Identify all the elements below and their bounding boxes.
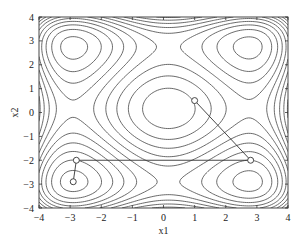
y-tick-label: 1 bbox=[29, 83, 34, 94]
contour-level bbox=[39, 17, 288, 208]
y-axis-label: x2 bbox=[9, 108, 20, 118]
axis-ticks bbox=[39, 17, 288, 208]
y-tick-label: −4 bbox=[23, 203, 34, 214]
path-point-marker bbox=[248, 157, 254, 163]
y-tick-labels: −4−3−2−101234 bbox=[23, 12, 34, 214]
contour-level bbox=[39, 17, 288, 208]
y-tick-label: 4 bbox=[29, 12, 34, 23]
path-point-marker bbox=[70, 179, 76, 185]
x-axis-label: x1 bbox=[159, 225, 169, 236]
path-point-marker bbox=[73, 157, 79, 163]
contour-level bbox=[39, 18, 286, 208]
x-tick-label: −4 bbox=[34, 212, 45, 223]
plot-frame bbox=[39, 17, 288, 208]
y-tick-label: −1 bbox=[23, 131, 34, 142]
contour-level bbox=[39, 17, 288, 208]
path-point-marker bbox=[192, 98, 198, 104]
x-tick-label: 2 bbox=[223, 212, 228, 223]
contour-lines bbox=[39, 17, 288, 208]
x-tick-label: 0 bbox=[161, 212, 166, 223]
y-tick-label: 3 bbox=[29, 35, 34, 46]
contour-level bbox=[52, 160, 102, 198]
y-tick-label: 2 bbox=[29, 59, 34, 70]
y-tick-label: 0 bbox=[29, 107, 34, 118]
x-tick-label: −2 bbox=[96, 212, 107, 223]
contour-level bbox=[39, 17, 288, 208]
x-tick-label: 4 bbox=[286, 212, 291, 223]
x-tick-label: 3 bbox=[254, 212, 259, 223]
contour-chart: −4−3−2−101234 −4−3−2−101234 x1 x2 bbox=[0, 0, 300, 242]
y-tick-label: −2 bbox=[23, 155, 34, 166]
x-tick-labels: −4−3−2−101234 bbox=[34, 212, 291, 223]
y-tick-label: −3 bbox=[23, 179, 34, 190]
optimization-path-line bbox=[73, 101, 250, 182]
x-tick-label: −3 bbox=[65, 212, 76, 223]
x-tick-label: −1 bbox=[127, 212, 138, 223]
contour-level bbox=[156, 17, 288, 118]
x-tick-label: 1 bbox=[192, 212, 197, 223]
contour-level bbox=[46, 37, 262, 203]
